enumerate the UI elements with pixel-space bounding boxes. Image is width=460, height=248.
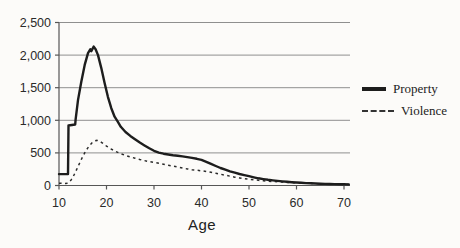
x-tick-label: 60 bbox=[290, 196, 304, 210]
y-tick-label: 0 bbox=[44, 179, 51, 193]
legend-item-property: Property bbox=[362, 82, 458, 95]
x-tick-label: 50 bbox=[242, 196, 256, 210]
y-tick-label: 1,500 bbox=[20, 81, 51, 95]
x-tick-label: 10 bbox=[52, 196, 66, 210]
x-axis-title: Age bbox=[59, 216, 345, 233]
x-tick-label: 40 bbox=[195, 196, 209, 210]
y-tick-label: 2,500 bbox=[20, 16, 51, 30]
property-solid-line-icon bbox=[362, 87, 386, 91]
x-tick-label: 20 bbox=[100, 196, 114, 210]
legend-item-violence: Violence bbox=[362, 104, 458, 117]
series-line-violence bbox=[59, 140, 349, 184]
age-crime-curve-figure: 05001,0001,5002,0002,50010203040506070 A… bbox=[0, 0, 460, 248]
y-tick-label: 1,000 bbox=[20, 114, 51, 128]
y-tick-label: 2,000 bbox=[20, 49, 51, 63]
chart-legend: Property Violence bbox=[362, 82, 458, 126]
violence-dashed-line-icon bbox=[362, 110, 394, 112]
series-line-property bbox=[59, 47, 349, 185]
x-tick-label: 70 bbox=[337, 196, 351, 210]
y-tick-label: 500 bbox=[30, 146, 51, 160]
legend-label-property: Property bbox=[393, 82, 438, 95]
legend-label-violence: Violence bbox=[401, 104, 447, 117]
x-tick-label: 30 bbox=[147, 196, 161, 210]
